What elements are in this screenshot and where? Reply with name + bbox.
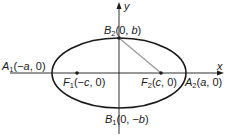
point-b2 bbox=[117, 36, 121, 40]
label-f1: F1(−c, 0) bbox=[63, 76, 105, 90]
point-f2 bbox=[159, 71, 163, 75]
x-axis-label: x bbox=[216, 60, 223, 72]
y-axis-arrow-icon bbox=[117, 2, 122, 9]
label-f2: F2(c, 0) bbox=[141, 76, 177, 90]
ellipse-diagram: x y B2(0, b) A1(−a, 0) F1(−c, 0) F2(c, 0… bbox=[0, 0, 227, 137]
label-a1: A1(−a, 0) bbox=[1, 60, 46, 74]
point-f1 bbox=[75, 71, 79, 75]
label-a2: A2(a, 0) bbox=[184, 76, 222, 90]
y-axis-label: y bbox=[123, 0, 131, 12]
label-b1: B1(0, −b) bbox=[105, 113, 149, 127]
label-b2: B2(0, b) bbox=[104, 24, 141, 38]
